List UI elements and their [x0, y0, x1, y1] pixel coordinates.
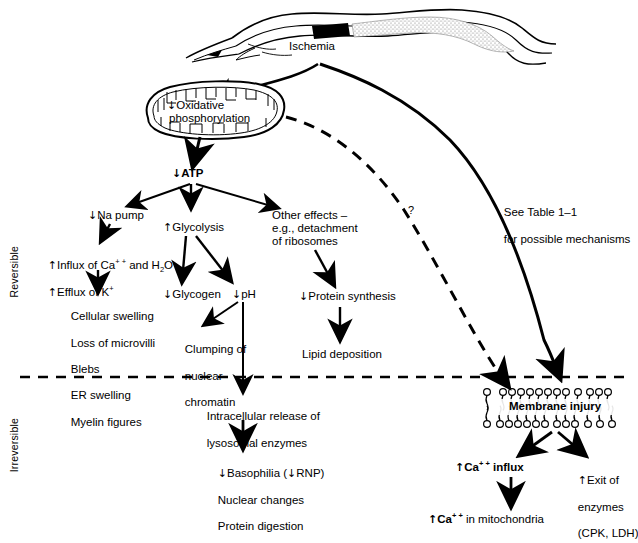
node-oxidative-phosphorylation: ↓Oxidativephosphorylation	[167, 99, 250, 125]
node-calcium-influx: ↑Ca+ + influx	[455, 461, 524, 474]
node-glycolysis: ↑Glycolysis	[163, 221, 224, 234]
question-mark-annotation: ?	[408, 204, 414, 217]
node-reversible-cell-changes: Cellular swelling Loss of microvilli Ble…	[58, 297, 155, 442]
down-arrow-icon: ↓	[232, 288, 241, 301]
down-arrow-icon: ↓	[88, 209, 97, 222]
node-irreversible-nuclear-changes: ↓Basophilia (↓RNP) Nuclear changes Prote…	[205, 454, 324, 543]
node-lipid-deposition: Lipid deposition	[302, 348, 382, 361]
up-arrow-icon: ↑	[578, 474, 587, 487]
blood-vessel-illustration	[186, 9, 556, 64]
up-arrow-icon: ↑	[428, 513, 437, 526]
down-arrow-icon: ↓	[299, 290, 308, 303]
node-na-pump: ↓Na pump	[88, 209, 144, 222]
down-arrow-icon: ↓	[172, 167, 181, 180]
node-ph: ↓pH	[232, 288, 256, 301]
zone-label-reversible: Reversible	[8, 246, 20, 298]
node-ischemia: Ischemia	[289, 40, 335, 53]
down-arrow-icon: ↓	[167, 99, 176, 112]
node-protein-synthesis: ↓Protein synthesis	[299, 290, 396, 303]
node-membrane-injury: Membrane injury	[509, 400, 601, 413]
down-arrow-icon: ↓	[287, 467, 296, 480]
zone-label-irreversible: Irreversible	[8, 418, 20, 472]
node-enzyme-exit: ↑Exit of enzymes (CPK, LDH)	[565, 461, 638, 543]
up-arrow-icon: ↑	[455, 461, 464, 474]
note-see-table: See Table 1–1 for possible mechanisms	[491, 193, 630, 259]
up-arrow-icon: ↑	[48, 259, 57, 272]
node-other-effects: Other effects –e.g., detachmentof riboso…	[272, 209, 358, 249]
uncertain-dashed-connector	[286, 117, 508, 386]
node-glycogen: ↓Glycogen	[163, 288, 221, 301]
up-arrow-icon: ↑	[48, 286, 57, 299]
down-arrow-icon: ↓	[163, 288, 172, 301]
down-arrow-icon: ↓	[218, 467, 227, 480]
node-atp: ↓ATP	[172, 167, 203, 180]
node-calcium-in-mitochondria: ↑Ca+ + in mitochondria	[428, 513, 544, 526]
up-arrow-icon: ↑	[163, 221, 172, 234]
